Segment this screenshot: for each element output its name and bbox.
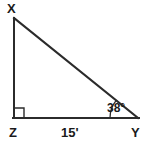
vertex-label-y: Y (131, 126, 140, 139)
geometry-figure: X Z Y 15' 38° (0, 0, 148, 145)
triangle-drawing (0, 0, 148, 145)
vertex-label-x: X (7, 2, 16, 15)
right-angle-square-icon (14, 108, 24, 118)
side-length-label: 15' (61, 126, 79, 139)
vertex-label-z: Z (9, 126, 17, 139)
angle-measure-label: 38° (107, 102, 125, 114)
